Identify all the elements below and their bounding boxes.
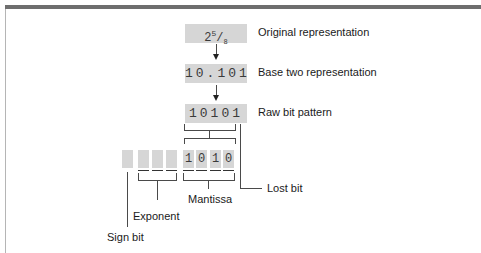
arrow-shaft-2 (216, 85, 217, 95)
original-representation-box: 25/8 (185, 24, 247, 43)
lost-bit-label: Lost bit (267, 182, 302, 194)
fraction-denominator: 8 (224, 38, 228, 46)
raw-bit-pattern-label: Raw bit pattern (258, 106, 332, 118)
bracket-stem (209, 130, 210, 138)
fraction-slash: / (216, 31, 223, 45)
cell-underline (210, 170, 221, 171)
mantissa-bracket-bottom (183, 180, 235, 181)
mantissa-cell: 1 (210, 150, 221, 168)
mantissa-bracket-right (234, 173, 235, 180)
exponent-label: Exponent (133, 210, 179, 222)
lost-bit-leader-horizontal (240, 188, 262, 189)
exponent-leader (157, 180, 158, 200)
lost-bit-leader (240, 124, 241, 188)
left-rule (5, 9, 6, 253)
exponent-cell (152, 150, 163, 168)
cell-underline (152, 170, 163, 171)
sign-bit-label: Sign bit (107, 231, 144, 243)
cell-underline (138, 170, 149, 171)
sign-bit-cell (122, 150, 133, 168)
arrow-shaft-1 (216, 44, 217, 54)
mantissa-top-bracket-left (184, 138, 185, 144)
base-two-label: Base two representation (258, 66, 377, 78)
cell-underline (183, 170, 194, 171)
top-rule (5, 5, 481, 9)
mantissa-cell: 0 (223, 150, 234, 168)
mantissa-cell: 1 (183, 150, 194, 168)
exponent-bracket-right (176, 173, 177, 180)
cell-underline (196, 170, 207, 171)
mantissa-cell: 0 (196, 150, 207, 168)
base-two-box: 10.101 (185, 64, 247, 83)
mantissa-label: Mantissa (188, 193, 232, 205)
mantissa-top-bracket-right (235, 138, 236, 144)
mantissa-leader (208, 180, 209, 189)
down-arrow-icon (213, 54, 219, 60)
exponent-cell (138, 150, 149, 168)
cell-underline (166, 170, 177, 171)
down-arrow-icon (213, 95, 219, 101)
mantissa-top-bracket (184, 138, 236, 139)
bracket-bottom (184, 130, 236, 131)
exponent-cell (166, 150, 177, 168)
cell-underline (223, 170, 234, 171)
mantissa-bracket-left (183, 173, 184, 180)
exponent-bracket-left (138, 173, 139, 180)
sign-bit-leader (127, 172, 128, 227)
original-representation-label: Original representation (258, 26, 369, 38)
raw-bit-pattern-box: 10101 (185, 104, 247, 123)
